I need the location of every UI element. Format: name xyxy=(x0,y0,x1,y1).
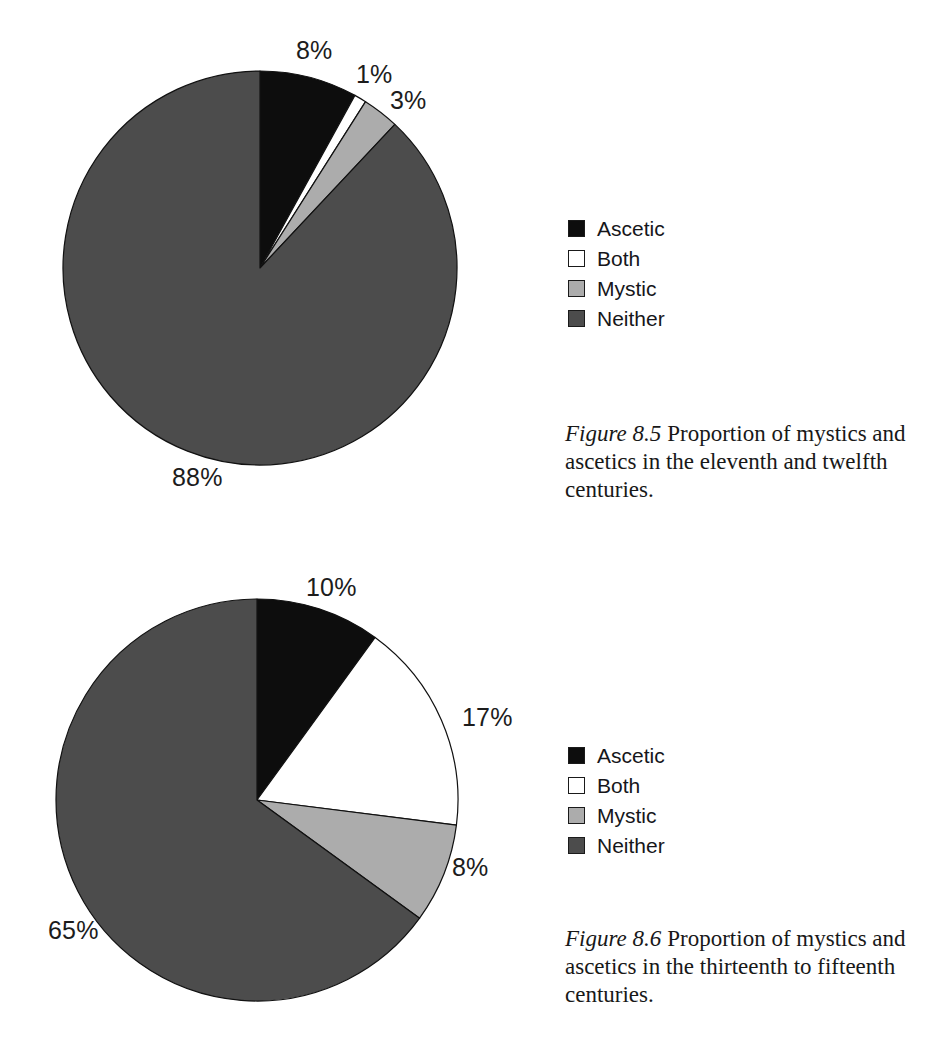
pct-label-mystic-8-6: 8% xyxy=(452,855,489,880)
legend-label: Ascetic xyxy=(597,218,665,239)
caption-figure-number-8-6: Figure 8.6 xyxy=(565,926,661,951)
legend-item: Both xyxy=(568,775,665,796)
caption-figure-number-8-5: Figure 8.5 xyxy=(565,421,661,446)
legend-swatch-mystic-icon xyxy=(568,280,585,297)
legend-8-6: AsceticBothMysticNeither xyxy=(568,745,665,856)
legend-swatch-mystic-icon xyxy=(568,807,585,824)
figure-page: { "page": { "background": "#ffffff", "wi… xyxy=(0,0,933,1059)
pct-label-ascetic-8-5: 8% xyxy=(296,38,333,63)
legend-swatch-neither-icon xyxy=(568,837,585,854)
legend-8-5: AsceticBothMysticNeither xyxy=(568,218,665,329)
pct-label-both-8-5: 1% xyxy=(356,62,393,87)
legend-label: Ascetic xyxy=(597,745,665,766)
pct-label-ascetic-8-6: 10% xyxy=(306,575,357,600)
legend-label: Both xyxy=(597,775,640,796)
legend-label: Mystic xyxy=(597,278,657,299)
legend-label: Neither xyxy=(597,308,665,329)
pie-chart-8-5 xyxy=(62,70,458,466)
legend-item: Ascetic xyxy=(568,745,665,766)
pie-chart-8-6 xyxy=(55,598,459,1002)
legend-swatch-neither-icon xyxy=(568,310,585,327)
legend-item: Ascetic xyxy=(568,218,665,239)
legend-label: Neither xyxy=(597,835,665,856)
pct-label-neither-8-5: 88% xyxy=(172,465,223,490)
caption-8-5: Figure 8.5Proportion of mystics and asce… xyxy=(565,420,915,504)
legend-item: Neither xyxy=(568,308,665,329)
legend-swatch-both-icon xyxy=(568,250,585,267)
legend-item: Mystic xyxy=(568,805,665,826)
legend-label: Mystic xyxy=(597,805,657,826)
pct-label-mystic-8-5: 3% xyxy=(390,88,427,113)
pie-slice-neither xyxy=(63,71,457,465)
pie-chart-8-6-svg xyxy=(55,598,459,1002)
legend-swatch-ascetic-icon xyxy=(568,747,585,764)
legend-item: Both xyxy=(568,248,665,269)
pct-label-neither-8-6: 65% xyxy=(48,918,99,943)
legend-swatch-ascetic-icon xyxy=(568,220,585,237)
pie-chart-8-5-svg xyxy=(62,70,458,466)
legend-item: Mystic xyxy=(568,278,665,299)
legend-swatch-both-icon xyxy=(568,777,585,794)
legend-item: Neither xyxy=(568,835,665,856)
legend-label: Both xyxy=(597,248,640,269)
pct-label-both-8-6: 17% xyxy=(462,705,513,730)
caption-8-6: Figure 8.6Proportion of mystics and asce… xyxy=(565,925,915,1009)
